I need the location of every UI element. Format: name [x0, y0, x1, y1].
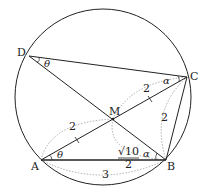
angle-label-b: α — [143, 148, 150, 159]
label-m: M — [109, 105, 120, 118]
label-a: A — [30, 160, 40, 173]
length-label-ab: 3 — [102, 168, 109, 181]
length-label-am: 2 — [69, 120, 76, 133]
geometry-diagram: D C M A B θ θ α α 2 2 2 3 √10 2 — [0, 0, 205, 193]
angle-arc-b — [156, 153, 157, 160]
label-d: D — [17, 46, 26, 59]
label-c: C — [190, 70, 198, 83]
segment-bc — [166, 77, 187, 160]
angle-arc-c — [178, 76, 179, 82]
angle-label-d: θ — [44, 58, 50, 69]
length-label-bc: 2 — [161, 111, 168, 124]
angle-label-c: α — [163, 75, 170, 86]
length-label-mb-numerator: √10 — [118, 145, 139, 158]
point-m-dot — [112, 118, 115, 121]
length-label-mc: 2 — [143, 82, 150, 95]
angle-arc-d — [37, 57, 39, 62]
label-b: B — [167, 160, 175, 173]
length-label-mb-denominator: 2 — [125, 158, 132, 171]
angle-label-a: θ — [57, 149, 63, 160]
